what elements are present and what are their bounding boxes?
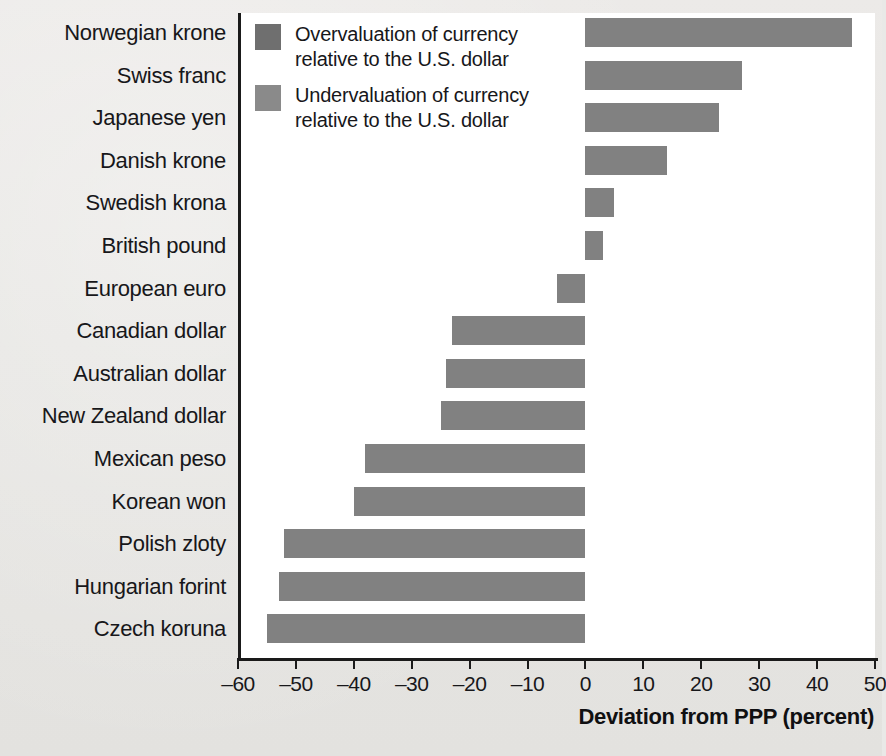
category-label: Czech koruna — [0, 616, 226, 642]
legend-item-undervaluation: Undervaluation of currency relative to t… — [255, 83, 575, 133]
bar — [557, 274, 586, 303]
x-tick — [353, 658, 355, 669]
x-tick-label: –30 — [395, 672, 429, 696]
x-tick — [874, 658, 876, 669]
bar — [452, 316, 585, 345]
legend: Overvaluation of currency relative to th… — [255, 22, 575, 144]
x-tick — [527, 658, 529, 669]
bar — [446, 359, 585, 388]
x-tick-label: 10 — [632, 672, 654, 696]
category-label: Swedish krona — [0, 190, 226, 216]
x-tick — [295, 658, 297, 669]
category-label: Norwegian krone — [0, 20, 226, 46]
x-axis-title: Deviation from PPP (percent) — [578, 704, 874, 730]
x-axis-line — [238, 658, 878, 661]
x-tick-label: 20 — [690, 672, 712, 696]
x-tick — [700, 658, 702, 669]
bar — [585, 231, 602, 260]
x-tick-label: 30 — [748, 672, 770, 696]
category-label: Mexican peso — [0, 446, 226, 472]
bar — [279, 572, 586, 601]
x-tick-label: 0 — [580, 672, 591, 696]
legend-label-undervaluation: Undervaluation of currency relative to t… — [295, 83, 529, 133]
bar — [585, 103, 718, 132]
bar — [585, 188, 614, 217]
bar — [365, 444, 585, 473]
category-label: Swiss franc — [0, 63, 226, 89]
legend-swatch-undervaluation — [255, 85, 281, 111]
x-tick-label: –40 — [337, 672, 371, 696]
category-label: Japanese yen — [0, 105, 226, 131]
bar — [585, 146, 666, 175]
category-label: Australian dollar — [0, 361, 226, 387]
x-tick-label: –10 — [511, 672, 545, 696]
x-tick-label: 40 — [806, 672, 828, 696]
bar — [284, 529, 585, 558]
x-tick — [584, 658, 586, 669]
category-label: Polish zloty — [0, 531, 226, 557]
category-label: New Zealand dollar — [0, 403, 226, 429]
category-label: British pound — [0, 233, 226, 259]
category-label: Danish krone — [0, 148, 226, 174]
legend-label-overvaluation-line2: relative to the U.S. dollar — [295, 47, 518, 72]
bar — [585, 18, 851, 47]
legend-label-overvaluation-line1: Overvaluation of currency — [295, 22, 518, 47]
category-label: Korean won — [0, 489, 226, 515]
bar — [354, 487, 586, 516]
x-tick — [816, 658, 818, 669]
bar — [585, 61, 741, 90]
x-tick — [411, 658, 413, 669]
category-label: Canadian dollar — [0, 318, 226, 344]
bar — [267, 614, 586, 643]
legend-item-overvaluation: Overvaluation of currency relative to th… — [255, 22, 575, 72]
legend-swatch-overvaluation — [255, 24, 281, 50]
x-tick-label: –60 — [221, 672, 255, 696]
x-tick-label: –20 — [453, 672, 487, 696]
bar — [441, 401, 586, 430]
category-label: European euro — [0, 276, 226, 302]
category-label: Hungarian forint — [0, 574, 226, 600]
x-tick — [758, 658, 760, 669]
legend-label-undervaluation-line2: relative to the U.S. dollar — [295, 108, 529, 133]
legend-label-overvaluation: Overvaluation of currency relative to th… — [295, 22, 518, 72]
x-tick — [237, 658, 239, 669]
legend-label-undervaluation-line1: Undervaluation of currency — [295, 83, 529, 108]
x-tick — [642, 658, 644, 669]
x-tick — [469, 658, 471, 669]
x-tick-label: 50 — [864, 672, 886, 696]
x-tick-label: –50 — [279, 672, 313, 696]
